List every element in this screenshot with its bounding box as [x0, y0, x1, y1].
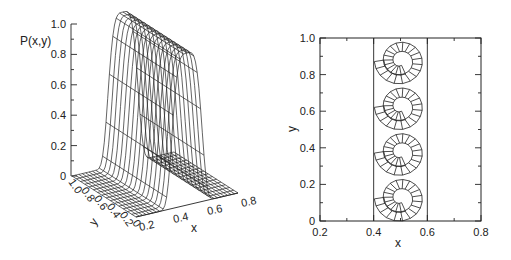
y-tick-labels: 00.20.40.60.81.0 [300, 32, 315, 227]
svg-text:0.6: 0.6 [206, 202, 223, 217]
svg-text:0.8: 0.8 [51, 48, 66, 60]
svg-text:0: 0 [60, 170, 66, 182]
svg-text:0.4: 0.4 [172, 210, 189, 225]
svg-text:1.0: 1.0 [300, 32, 315, 44]
x-axis-title: x [395, 236, 401, 250]
svg-text:1.0: 1.0 [51, 18, 66, 30]
x-tick-labels-3d: 0.20.40.60.8 [138, 194, 257, 233]
svg-text:0.6: 0.6 [300, 105, 315, 117]
x-axis-title-3d: x [191, 221, 197, 235]
figure: P(x,y) 00.20.40.60.81.0 0.20.40.60.8 00.… [0, 0, 511, 260]
z-tick-labels: 00.20.40.60.81.0 [51, 18, 66, 182]
hatched-band-pattern [374, 42, 422, 221]
svg-text:0.4: 0.4 [366, 226, 381, 238]
svg-text:0.2: 0.2 [312, 226, 327, 238]
svg-text:0.8: 0.8 [300, 69, 315, 81]
svg-text:0.2: 0.2 [300, 178, 315, 190]
svg-text:0.8: 0.8 [240, 194, 257, 209]
svg-text:0.4: 0.4 [300, 142, 315, 154]
contour-plot: 0.20.40.60.8 00.20.40.60.81.0 x y [285, 32, 489, 250]
surface-plot: P(x,y) 00.20.40.60.81.0 0.20.40.60.8 00.… [20, 11, 257, 235]
svg-text:0.6: 0.6 [420, 226, 435, 238]
surface-wireframe [72, 11, 238, 217]
svg-text:0.6: 0.6 [51, 79, 66, 91]
z-axis-title: P(x,y) [20, 34, 51, 48]
y-axis-title-3d: y [86, 215, 101, 228]
svg-text:0: 0 [309, 215, 315, 227]
svg-text:0.2: 0.2 [51, 140, 66, 152]
svg-text:0.8: 0.8 [473, 226, 488, 238]
svg-text:0.4: 0.4 [51, 109, 66, 121]
y-axis-title: y [285, 126, 299, 132]
